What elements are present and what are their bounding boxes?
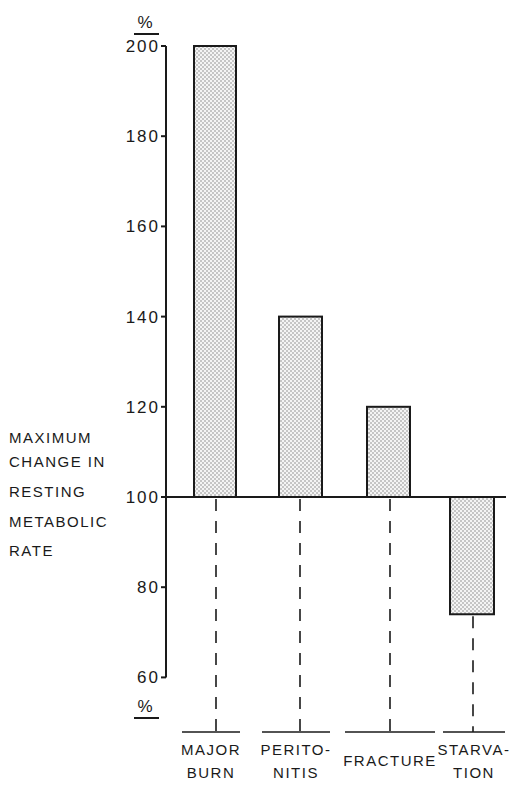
y-axis-label-line: METABOLIC	[9, 513, 108, 530]
svg-text:BURN: BURN	[187, 764, 236, 781]
y-tick-label: 200	[126, 37, 160, 56]
svg-text:FRACTURE: FRACTURE	[343, 752, 437, 769]
svg-text:MAJOR: MAJOR	[181, 741, 241, 758]
svg-text:STARVA-: STARVA-	[437, 741, 510, 758]
y-axis-label-line: CHANGE IN	[9, 453, 106, 470]
y-tick-label: 120	[126, 398, 160, 417]
y-tick-label: 80	[137, 578, 160, 597]
bar-fracture	[367, 407, 410, 497]
unit-top: %	[137, 13, 154, 32]
category-label-major-burn: MAJORBURN	[181, 741, 241, 781]
bar-starvation	[450, 497, 494, 614]
unit-bottom: %	[137, 697, 154, 716]
bar-peritonitis	[279, 317, 322, 497]
svg-text:TION: TION	[453, 764, 495, 781]
svg-text:PERITO-: PERITO-	[260, 741, 331, 758]
y-tick-label: 60	[137, 668, 160, 687]
y-tick-label: 140	[126, 308, 160, 327]
bars	[194, 46, 494, 732]
y-axis-label-line: RATE	[9, 542, 54, 559]
y-tick-label: 180	[126, 127, 160, 146]
bar-major-burn	[194, 46, 236, 497]
y-tick-label: 100	[126, 488, 160, 507]
svg-text:NITIS: NITIS	[273, 764, 319, 781]
y-axis-label-line: RESTING	[9, 483, 86, 500]
category-labels: MAJORBURNPERITO-NITISFRACTURESTARVA-TION	[181, 732, 511, 781]
y-axis-label: MAXIMUMCHANGE INRESTINGMETABOLICRATE	[9, 429, 108, 559]
y-axis-label-line: MAXIMUM	[9, 429, 92, 446]
y-tick-label: 160	[126, 217, 160, 236]
category-label-peritonitis: PERITO-NITIS	[260, 741, 331, 781]
category-label-fracture: FRACTURE	[343, 752, 437, 769]
metabolic-rate-bar-chart: 2001801601401201008060%% MAXIMUMCHANGE I…	[0, 0, 520, 787]
category-label-starvation: STARVA-TION	[437, 741, 510, 781]
